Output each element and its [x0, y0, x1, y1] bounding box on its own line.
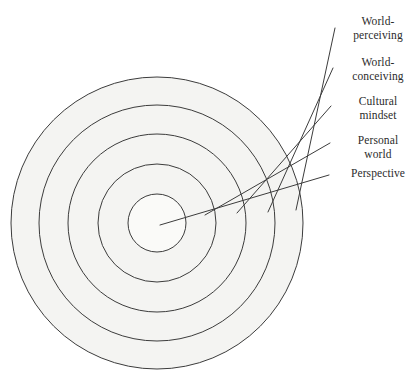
label-cultural-mindset-line1: Cultural: [359, 95, 398, 107]
label-world-perceiving-line2: perceiving: [341, 28, 415, 42]
ring-perspective: [128, 194, 186, 252]
label-world-conceiving-line1: World-: [362, 56, 395, 68]
concentric-circles-diagram: World- perceiving World- conceiving Cult…: [0, 0, 419, 389]
label-perspective-line1: Perspective: [351, 167, 405, 179]
label-perspective: Perspective: [339, 166, 417, 180]
label-cultural-mindset-line2: mindset: [341, 108, 415, 122]
label-personal-world-line1: Personal: [358, 134, 398, 146]
label-world-conceiving-line2: conceiving: [341, 69, 415, 83]
label-cultural-mindset: Cultural mindset: [341, 94, 415, 122]
label-personal-world-line2: world: [341, 147, 415, 161]
label-world-perceiving-line1: World-: [362, 15, 395, 27]
label-world-perceiving: World- perceiving: [341, 14, 415, 42]
label-world-conceiving: World- conceiving: [341, 55, 415, 83]
label-personal-world: Personal world: [341, 133, 415, 161]
